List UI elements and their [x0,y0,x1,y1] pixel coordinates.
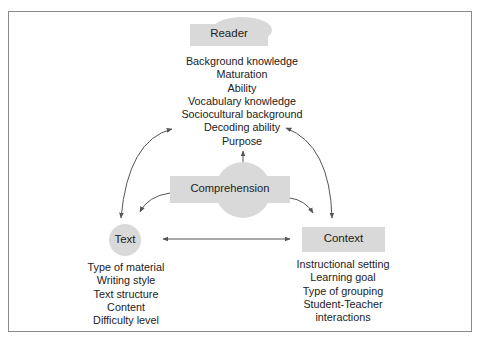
comprehension-label: Comprehension [157,182,303,194]
reader-attribute: Ability [152,82,332,95]
reader-attribute: Background knowledge [152,55,332,68]
reader-attribute: Maturation [152,68,332,81]
text-attribute: Type of material [66,261,186,274]
text-attribute: Text structure [66,288,186,301]
context-attribute: Learning goal [283,271,403,284]
context-attribute: Student-Teacher [283,298,403,311]
reader-label: Reader [190,27,268,39]
context-label: Context [302,232,385,244]
context-attribute: Instructional setting [283,258,403,271]
context-attribute: interactions [283,311,403,324]
reader-attribute: Sociocultural background [152,108,332,121]
arrow-comprehension-to-text [140,193,170,212]
reader-attribute: Vocabulary knowledge [152,95,332,108]
reader-attribute: Decoding ability [152,121,332,134]
text-attribute: Writing style [66,274,186,287]
text-attributes: Type of material Writing style Text stru… [66,261,186,327]
reader-attribute: Purpose [152,135,332,148]
arrow-comprehension-to-context [290,198,313,213]
text-attribute: Content [66,301,186,314]
text-attribute: Difficulty level [66,314,186,327]
context-attribute: Type of grouping [283,285,403,298]
reader-attributes: Background knowledge Maturation Ability … [152,55,332,148]
text-label: Text [105,233,145,245]
context-attributes: Instructional setting Learning goal Type… [283,258,403,324]
